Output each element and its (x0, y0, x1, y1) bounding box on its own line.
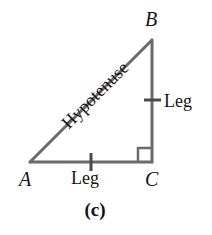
vertex-label-a: A (19, 169, 31, 189)
right-angle-marker (138, 148, 152, 162)
figure-caption: (c) (0, 200, 190, 219)
geometry-figure: B A C Hypotenuse Leg Leg (c) (0, 0, 212, 235)
horizontal-leg-label: Leg (71, 169, 99, 187)
vertex-label-c: C (145, 169, 158, 189)
vertex-label-b: B (145, 9, 157, 29)
vertical-leg-label: Leg (164, 92, 192, 110)
